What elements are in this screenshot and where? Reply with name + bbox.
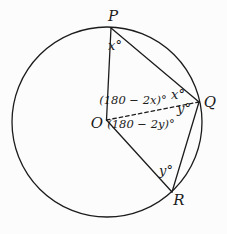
circle-theorem-figure: P Q R O x° x° y° y° (180 − 2x)° (180 − 2… [0,0,227,234]
angle-label-y-at-q: y° [176,101,191,116]
chord-PQ [111,28,199,102]
point-label-r: R [172,191,184,209]
point-label-p: P [107,7,119,25]
angle-label-y-at-r: y° [158,163,173,178]
point-label-q: Q [204,93,216,111]
centre-label-o: O [91,114,103,132]
central-angle-label-qor: (180 − 2y)° [107,117,174,131]
geometry-diagram: P Q R O x° x° y° y° (180 − 2x)° (180 − 2… [0,0,227,234]
angle-label-x-at-q: x° [171,87,185,102]
angle-label-x-at-p: x° [108,38,122,53]
central-angle-label-poq: (180 − 2x)° [99,93,166,107]
